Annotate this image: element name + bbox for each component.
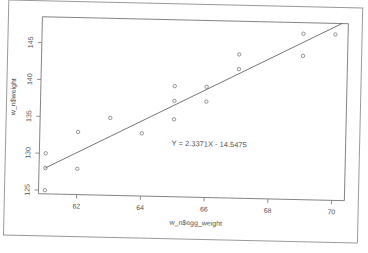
y-tick-label: 145 bbox=[27, 36, 34, 48]
data-point bbox=[43, 188, 46, 191]
data-point bbox=[76, 130, 79, 133]
x-tick-label: 62 bbox=[72, 202, 80, 209]
regression-line bbox=[45, 17, 342, 175]
y-axis-label: w_n$weight bbox=[9, 78, 18, 116]
outer-frame bbox=[3, 0, 362, 243]
y-tick-label: 140 bbox=[26, 73, 33, 85]
data-point bbox=[205, 85, 208, 88]
data-point bbox=[302, 32, 305, 35]
x-axis: 6264666870 bbox=[72, 194, 335, 215]
data-point bbox=[44, 152, 47, 155]
data-point bbox=[301, 54, 304, 57]
x-tick-label: 64 bbox=[136, 204, 144, 211]
chart-canvas: 6264666870 125130135140145 Y = 2.3371X -… bbox=[0, 0, 368, 253]
data-point bbox=[172, 118, 175, 121]
data-point bbox=[140, 132, 143, 135]
data-point bbox=[237, 67, 240, 70]
y-tick-label: 135 bbox=[25, 110, 32, 122]
x-tick-label: 68 bbox=[264, 207, 272, 214]
data-point bbox=[205, 100, 208, 103]
y-tick-label: 125 bbox=[23, 184, 30, 196]
x-axis-label: w_n$egg_weight bbox=[168, 219, 222, 228]
data-point bbox=[44, 166, 47, 169]
scatter-chart: 6264666870 125130135140145 Y = 2.3371X -… bbox=[0, 0, 368, 253]
y-tick-label: 130 bbox=[24, 147, 31, 159]
data-point bbox=[238, 53, 241, 56]
plot-area bbox=[38, 17, 348, 201]
x-tick-label: 70 bbox=[327, 208, 335, 215]
data-point bbox=[173, 84, 176, 87]
data-point bbox=[173, 99, 176, 102]
data-point bbox=[76, 167, 79, 170]
data-point bbox=[109, 116, 112, 119]
regression-equation: Y = 2.3371X - 14.5475 bbox=[172, 139, 247, 150]
data-point bbox=[334, 33, 337, 36]
data-points bbox=[43, 26, 337, 198]
x-tick-label: 66 bbox=[200, 205, 208, 212]
